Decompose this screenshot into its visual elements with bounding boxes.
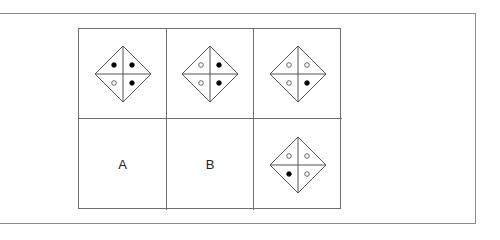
filled-dot-top-left (111, 62, 116, 67)
cell-r2-c2: B (167, 119, 254, 210)
open-dot-top-left (287, 153, 292, 158)
puzzle-grid: A B (78, 28, 341, 209)
filled-dot-bottom-right (217, 80, 222, 85)
diamond-symbol (268, 44, 328, 104)
diamond-symbol (268, 135, 328, 195)
open-dot-bottom-left (111, 80, 116, 85)
open-dot-top-right (305, 62, 310, 67)
diamond-symbol (93, 44, 153, 104)
filled-dot-bottom-left (287, 171, 292, 176)
cell-r2-c1: A (79, 119, 167, 210)
cell-r1-c2 (167, 29, 254, 119)
open-dot-top-right (305, 153, 310, 158)
cell-r1-c1 (79, 29, 167, 119)
open-dot-bottom-left (199, 80, 204, 85)
diamond-symbol (180, 44, 240, 104)
cell-r2-c3 (254, 119, 342, 210)
filled-dot-top-right (129, 62, 134, 67)
open-dot-top-left (287, 62, 292, 67)
cell-r1-c3 (254, 29, 342, 119)
label-b: B (206, 157, 215, 172)
open-dot-top-left (199, 62, 204, 67)
filled-dot-bottom-right (129, 80, 134, 85)
filled-dot-top-right (217, 62, 222, 67)
label-a: A (118, 157, 127, 172)
open-dot-bottom-right (305, 171, 310, 176)
open-dot-bottom-left (287, 80, 292, 85)
filled-dot-bottom-right (305, 80, 310, 85)
